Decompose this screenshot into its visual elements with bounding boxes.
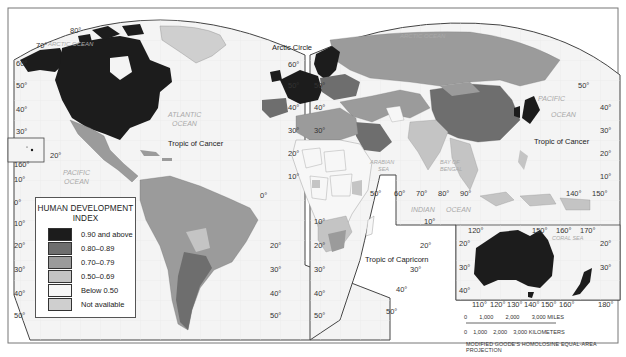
legend-item: 0.70–0.79	[48, 255, 135, 269]
legend-item: Not available	[48, 297, 135, 311]
bay-of-bengal-label: BAY OF	[440, 159, 460, 165]
svg-text:50°: 50°	[288, 81, 299, 90]
svg-text:30°: 30°	[288, 126, 299, 135]
svg-text:20°: 20°	[288, 149, 299, 158]
atlantic-ocean-label: ATLANTIC	[167, 111, 202, 118]
svg-text:30°: 30°	[600, 126, 611, 135]
svg-text:70°: 70°	[36, 41, 47, 50]
svg-text:20°: 20°	[600, 149, 611, 158]
svg-text:80°: 80°	[70, 26, 81, 35]
pacific-ocean-east-label: PACIFIC	[538, 95, 566, 102]
svg-text:60°: 60°	[16, 59, 27, 68]
svg-text:30°: 30°	[16, 127, 27, 136]
australia-inset	[456, 225, 620, 300]
legend-item: 0.80–0.89	[48, 241, 135, 255]
svg-text:120°: 120°	[490, 300, 506, 309]
pacific-ocean-west-label: PACIFIC	[63, 169, 91, 176]
svg-text:50°: 50°	[314, 311, 325, 320]
svg-text:10°: 10°	[14, 175, 25, 184]
svg-text:30°: 30°	[459, 263, 470, 272]
svg-text:50°: 50°	[314, 81, 325, 90]
legend-swatch	[48, 256, 72, 269]
svg-text:0°: 0°	[14, 198, 21, 207]
svg-text:OCEAN: OCEAN	[64, 178, 90, 185]
hdi-legend: HUMAN DEVELOPMENT INDEX 0.90 and above 0…	[35, 197, 136, 318]
svg-text:20°: 20°	[459, 239, 470, 248]
legend-title: HUMAN DEVELOPMENT INDEX	[36, 204, 135, 224]
legend-swatch	[48, 284, 72, 297]
svg-text:50°: 50°	[16, 81, 27, 90]
svg-text:40°: 40°	[459, 286, 470, 295]
arctic-ocean-east-label: ARCTIC OCEAN	[399, 33, 446, 39]
svg-text:10°: 10°	[600, 172, 611, 181]
svg-text:30°: 30°	[410, 265, 421, 274]
svg-text:10°: 10°	[288, 172, 299, 181]
svg-text:OCEAN: OCEAN	[172, 120, 198, 127]
arctic-circle-label: Arctic Circle	[272, 43, 312, 52]
svg-text:40°: 40°	[314, 289, 325, 298]
svg-text:80°: 80°	[438, 189, 449, 198]
svg-text:OCEAN: OCEAN	[446, 206, 472, 213]
legend-swatch	[48, 298, 72, 311]
legend-swatch	[48, 270, 72, 283]
scale-km: 0 1,000 2,000 3,000 KILOMETERS	[464, 329, 621, 335]
svg-text:40°: 40°	[314, 103, 325, 112]
svg-text:170°: 170°	[580, 226, 596, 235]
svg-text:BENGAL: BENGAL	[440, 166, 462, 172]
svg-text:40°: 40°	[288, 103, 299, 112]
svg-text:40°: 40°	[16, 105, 27, 114]
svg-text:150°: 150°	[541, 300, 557, 309]
svg-text:50°: 50°	[578, 81, 589, 90]
legend-item: 0.50–0.69	[48, 269, 135, 283]
svg-text:30°: 30°	[270, 265, 281, 274]
legend-swatch	[48, 228, 72, 241]
svg-text:30°: 30°	[14, 265, 25, 274]
indian-ocean-label: INDIAN	[411, 206, 436, 213]
svg-text:180°: 180°	[598, 300, 614, 309]
legend-item: 0.90 and above	[48, 227, 135, 241]
svg-text:90°: 90°	[460, 189, 471, 198]
svg-text:150°: 150°	[532, 226, 548, 235]
arctic-ocean-west-label: ARCTIC OCEAN	[47, 41, 94, 47]
tropic-of-cancer-east-label: Tropic of Cancer	[534, 137, 590, 146]
svg-text:70°: 70°	[416, 189, 427, 198]
map-scale: 0 1,000 2,000 3,000 MILES 0 1,000 2,000 …	[456, 314, 621, 335]
tropic-of-cancer-west-label: Tropic of Cancer	[168, 139, 224, 148]
svg-text:10°: 10°	[14, 219, 25, 228]
tropic-of-capricorn-label: Tropic of Capricorn	[365, 255, 429, 264]
legend-item: Below 0.50	[48, 283, 135, 297]
scale-miles: 0 1,000 2,000 3,000 MILES	[464, 314, 564, 320]
svg-text:SEA: SEA	[378, 166, 389, 172]
svg-text:20°: 20°	[270, 241, 281, 250]
svg-text:10°: 10°	[314, 217, 325, 226]
svg-text:50°: 50°	[270, 311, 281, 320]
svg-text:20°: 20°	[50, 151, 61, 160]
svg-text:OCEAN: OCEAN	[551, 111, 577, 118]
svg-text:110°: 110°	[472, 300, 487, 309]
svg-text:150°: 150°	[592, 189, 608, 198]
svg-text:20°: 20°	[600, 239, 611, 248]
svg-text:20°: 20°	[14, 241, 25, 250]
svg-text:60°: 60°	[394, 189, 405, 198]
svg-text:0°: 0°	[260, 191, 267, 200]
svg-text:40°: 40°	[14, 289, 25, 298]
svg-text:40°: 40°	[600, 103, 611, 112]
svg-text:160°: 160°	[14, 160, 30, 169]
legend-swatch	[48, 242, 72, 255]
svg-text:20°: 20°	[420, 241, 431, 250]
svg-text:140°: 140°	[524, 300, 540, 309]
svg-text:120°: 120°	[468, 226, 484, 235]
svg-text:30°: 30°	[314, 265, 325, 274]
svg-text:30°: 30°	[314, 126, 325, 135]
svg-text:160°: 160°	[556, 226, 572, 235]
svg-text:40°: 40°	[396, 285, 407, 294]
svg-text:160°: 160°	[559, 300, 575, 309]
svg-text:30°: 30°	[600, 263, 611, 272]
svg-text:40°: 40°	[270, 289, 281, 298]
svg-text:50°: 50°	[370, 189, 381, 198]
svg-text:60°: 60°	[288, 60, 299, 69]
hawaii-inset	[8, 138, 44, 162]
svg-text:20°: 20°	[314, 241, 325, 250]
svg-text:50°: 50°	[14, 311, 25, 320]
coral-sea-label: CORAL SEA	[552, 235, 584, 241]
